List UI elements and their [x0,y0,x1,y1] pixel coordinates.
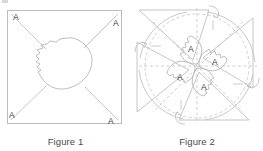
figure-2-drawing [131,0,263,131]
dashed-arc-lower-left [145,66,197,118]
figure-1-caption: Figure 1 [0,136,131,147]
figure-1-drawing [0,0,131,131]
figure-2-caption: Figure 2 [131,136,263,147]
irregular-blob-shape [36,38,92,89]
sweep-arc-top-left [140,12,187,58]
figure1-label-A-top-left: A [13,13,19,22]
diagonal-bottom-left [11,86,46,120]
figure2-label-A-lower-left: A [177,73,183,82]
figure2-label-A-upper-left: A [188,45,194,54]
figure2-label-A-right: A [212,58,218,67]
figure1-label-A-bottom-left: A [9,111,15,120]
figure2-label-A-below-center: A [201,83,207,92]
figure1-label-A-bottom-right: A [108,117,114,126]
sweep-arc-top-right [207,12,255,62]
figure-comparison-page: A A A A Figure 1 [0,0,263,151]
figure1-label-A-top-right: A [113,19,119,28]
figure-1-panel: A A A A Figure 1 [0,0,131,151]
figure-2-panel: A A A A Figure 2 [131,0,263,151]
